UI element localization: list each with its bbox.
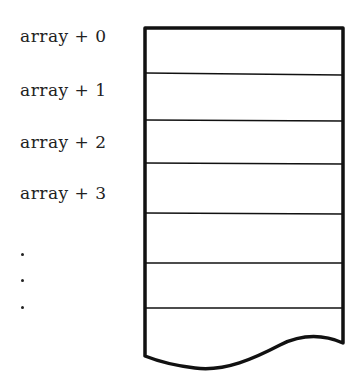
- memory-block-outline: [145, 28, 343, 369]
- memory-block: [0, 0, 363, 378]
- cell-divider: [146, 213, 342, 214]
- cell-divider: [146, 120, 342, 121]
- cell-divider: [146, 163, 342, 164]
